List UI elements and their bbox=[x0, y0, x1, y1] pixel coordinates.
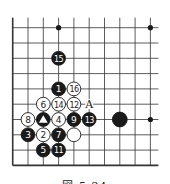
move-number: 8 bbox=[25, 115, 31, 125]
star-point bbox=[148, 25, 153, 30]
board-grid bbox=[13, 18, 159, 166]
white-stone: 16 bbox=[67, 82, 81, 96]
black-stone: 5 bbox=[36, 143, 50, 157]
black-stone: 7 bbox=[52, 128, 66, 142]
white-stone: 12 bbox=[67, 97, 81, 111]
move-number: 2 bbox=[40, 130, 46, 140]
star-point bbox=[148, 117, 153, 122]
white-stone: 14 bbox=[52, 97, 66, 111]
black-stone: 1 bbox=[52, 82, 66, 96]
black-stone bbox=[112, 112, 127, 127]
move-number: 11 bbox=[54, 146, 63, 155]
move-number: 6 bbox=[40, 100, 46, 110]
figure-caption: 図 5-24 bbox=[0, 177, 170, 184]
black-stone: 13 bbox=[82, 113, 96, 127]
move-number: 7 bbox=[56, 130, 62, 140]
move-number: 9 bbox=[71, 115, 77, 125]
move-number: 13 bbox=[85, 116, 94, 125]
move-number: 4 bbox=[56, 115, 62, 125]
white-stone: 2 bbox=[36, 128, 50, 142]
move-number: 1 bbox=[56, 84, 62, 94]
annotations-layer: A bbox=[84, 98, 94, 111]
white-stone: 4 bbox=[52, 113, 66, 127]
move-number: 5 bbox=[40, 145, 46, 155]
point-label: A bbox=[84, 98, 94, 111]
move-number: 16 bbox=[69, 85, 78, 94]
black-stone: 3 bbox=[21, 128, 35, 142]
star-point bbox=[56, 25, 61, 30]
white-stone: 6 bbox=[36, 97, 50, 111]
move-number: 15 bbox=[54, 55, 63, 64]
black-stone: 9 bbox=[67, 113, 81, 127]
move-number: 3 bbox=[25, 130, 31, 140]
white-stone: 8 bbox=[21, 113, 35, 127]
white-stone bbox=[67, 128, 81, 142]
move-number: 12 bbox=[69, 101, 78, 110]
go-board-diagram: 123456789111213141516 A bbox=[0, 0, 170, 184]
black-stone bbox=[36, 113, 50, 127]
move-number: 14 bbox=[54, 101, 63, 110]
black-stone: 11 bbox=[52, 143, 66, 157]
black-stone: 15 bbox=[52, 51, 66, 65]
